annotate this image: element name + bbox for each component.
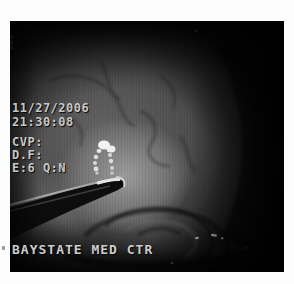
osd-facility: BAYSTATE MED CTR bbox=[12, 243, 153, 256]
osd-time: 21:30:08 bbox=[12, 116, 74, 128]
margin-speck bbox=[2, 246, 5, 250]
osd-line-cvp: CVP: bbox=[12, 136, 43, 148]
osd-line-e: E:6 Q:N bbox=[12, 162, 66, 174]
vignette-overlay bbox=[10, 21, 284, 272]
osd-line-df: D.F: bbox=[12, 149, 43, 161]
endoscopy-photo: 11/27/2006 21:30:08 CVP: D.F: E:6 Q:N BA… bbox=[10, 21, 284, 272]
scanned-page: 11/27/2006 21:30:08 CVP: D.F: E:6 Q:N BA… bbox=[0, 0, 294, 284]
osd-date: 11/27/2006 bbox=[12, 102, 89, 114]
